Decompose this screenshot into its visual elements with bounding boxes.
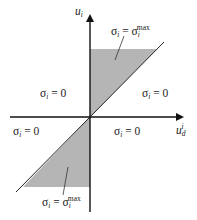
x-axis-label: udi bbox=[176, 125, 184, 137]
y-axis-arrowhead-icon bbox=[86, 14, 94, 22]
diagram-canvas bbox=[0, 0, 197, 220]
y-axis-label: ui bbox=[75, 6, 83, 18]
lower-shaded-label: σi = σimax bbox=[42, 197, 81, 209]
upper-left-label: σi = 0 bbox=[40, 88, 66, 100]
lower-left-label: σi = 0 bbox=[13, 126, 39, 138]
upper-shaded-label: σi = σimax bbox=[111, 26, 150, 38]
upper-right-label: σi = 0 bbox=[142, 88, 168, 100]
lower-right-label: σi = 0 bbox=[114, 126, 140, 138]
x-axis-arrowhead-icon bbox=[176, 113, 184, 121]
